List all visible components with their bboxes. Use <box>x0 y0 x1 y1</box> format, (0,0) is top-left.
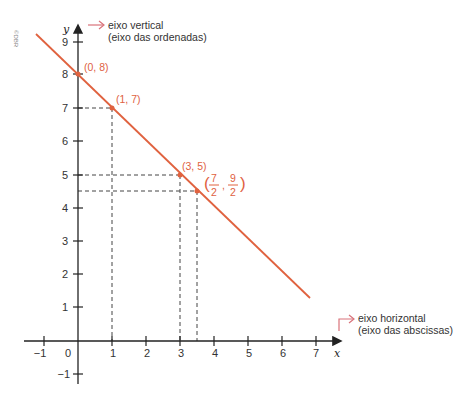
svg-text:,: , <box>222 179 225 191</box>
point-label-0-8: (0, 8) <box>84 61 109 73</box>
guide-lines <box>78 108 197 341</box>
svg-text:4: 4 <box>62 202 68 214</box>
svg-text:7: 7 <box>62 102 68 114</box>
svg-text:2: 2 <box>230 186 236 198</box>
svg-text:4: 4 <box>212 347 218 359</box>
vertical-axis-annotation: eixo vertical (eixo das ordenadas) <box>88 19 207 43</box>
svg-text:eixo vertical: eixo vertical <box>108 19 163 31</box>
horizontal-axis-annotation: eixo horizontal (eixo das abscissas) <box>339 312 453 336</box>
svg-text:5: 5 <box>62 169 68 181</box>
svg-text:6: 6 <box>62 135 68 147</box>
svg-text:−1: −1 <box>57 368 70 380</box>
svg-text:3: 3 <box>62 235 68 247</box>
svg-text:0: 0 <box>65 347 71 359</box>
svg-text:5: 5 <box>246 347 252 359</box>
x-axis-name: x <box>334 347 341 360</box>
svg-text:eixo horizontal: eixo horizontal <box>358 312 426 324</box>
y-tick-labels: 9 8 7 6 5 4 3 2 1 −1 y <box>57 23 70 380</box>
svg-text:2: 2 <box>144 347 150 359</box>
svg-text:6: 6 <box>280 347 286 359</box>
point-label-1-7: (1, 7) <box>116 93 141 105</box>
svg-text:2: 2 <box>62 268 68 280</box>
svg-text:1: 1 <box>62 301 68 313</box>
svg-text:2: 2 <box>211 186 217 198</box>
y-axis-name: y <box>62 23 70 36</box>
svg-text:(eixo das abscissas): (eixo das abscissas) <box>358 324 453 336</box>
svg-text:9: 9 <box>230 172 236 184</box>
point-label-7-2-9-2: ( 7 2 , 9 2 ) <box>204 172 246 198</box>
svg-text:7: 7 <box>211 172 217 184</box>
svg-text:(eixo das ordenadas): (eixo das ordenadas) <box>108 31 207 43</box>
svg-text:7: 7 <box>313 347 319 359</box>
svg-text:8: 8 <box>62 68 68 80</box>
svg-text:(: ( <box>204 174 210 193</box>
svg-text:1: 1 <box>110 347 116 359</box>
svg-text:3: 3 <box>178 347 184 359</box>
cartesian-chart: ©DBR −1 0 1 2 3 4 5 6 7 x <box>0 0 463 397</box>
x-tick-labels: −1 0 1 2 3 4 5 6 7 x <box>34 347 341 360</box>
svg-text:): ) <box>240 174 246 193</box>
svg-text:−1: −1 <box>34 347 47 359</box>
credit-text: ©DBR <box>13 30 19 48</box>
svg-text:9: 9 <box>62 36 68 48</box>
point-label-3-5: (3, 5) <box>182 160 207 172</box>
